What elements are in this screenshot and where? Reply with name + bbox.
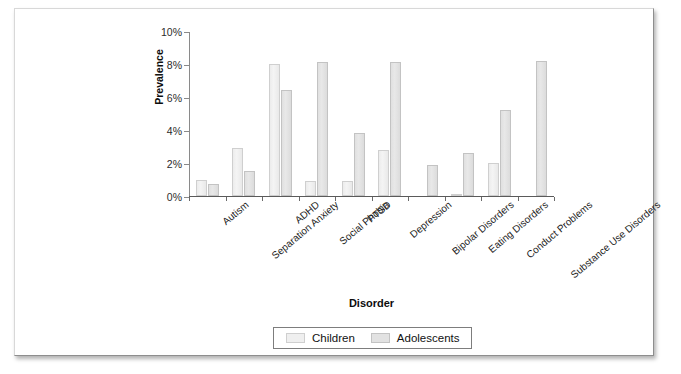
bar-adolescents[interactable]	[317, 62, 328, 196]
bar-group	[305, 31, 328, 196]
bar-children[interactable]	[196, 180, 207, 197]
bar-group	[524, 31, 547, 196]
bar-group	[196, 31, 219, 196]
bar-children[interactable]	[232, 148, 243, 196]
bar-adolescents[interactable]	[536, 61, 547, 196]
bar-adolescents[interactable]	[463, 153, 474, 196]
y-tick-label: 2%	[167, 158, 182, 170]
bar-group	[232, 31, 255, 196]
bar-children[interactable]	[269, 64, 280, 196]
y-tick-mark	[184, 131, 189, 132]
x-tick-label: Autism	[220, 199, 250, 227]
bar-adolescents[interactable]	[427, 165, 438, 196]
chart-legend: ChildrenAdolescents	[273, 327, 472, 349]
bar-group	[269, 31, 292, 196]
bar-group	[415, 31, 438, 196]
bar-adolescents[interactable]	[244, 171, 255, 196]
bar-children[interactable]	[342, 181, 353, 196]
y-tick-label: 10%	[161, 26, 182, 38]
x-tick-mark	[554, 197, 555, 201]
legend-label: Adolescents	[397, 332, 460, 344]
y-axis-line	[189, 32, 190, 197]
bar-group	[451, 31, 474, 196]
bar-adolescents[interactable]	[354, 133, 365, 196]
x-tick-label: Depression	[408, 199, 454, 240]
y-tick-label: 8%	[167, 59, 182, 71]
bar-group	[342, 31, 365, 196]
y-tick-mark	[184, 164, 189, 165]
legend-entry[interactable]: Children	[286, 332, 355, 344]
bar-group	[488, 31, 511, 196]
x-axis-title: Disorder	[189, 297, 554, 309]
y-tick-mark	[184, 98, 189, 99]
legend-entry[interactable]: Adolescents	[371, 332, 460, 344]
x-tick-label: Bipolar Disorders	[450, 199, 516, 257]
prevalence-bar-chart: Prevalence 0%2%4%6%8%10% AutismSeparatio…	[15, 9, 653, 355]
legend-label: Children	[312, 332, 355, 344]
page-sheet: Prevalence 0%2%4%6%8%10% AutismSeparatio…	[14, 8, 654, 356]
y-axis-title: Prevalence	[153, 27, 165, 127]
y-tick-label: 4%	[167, 125, 182, 137]
bar-adolescents[interactable]	[208, 184, 219, 196]
x-axis-labels: AutismSeparation AnxietyADHDSocial Phobi…	[189, 199, 554, 294]
bar-children[interactable]	[488, 163, 499, 196]
bar-adolescents[interactable]	[281, 90, 292, 196]
legend-swatch-icon	[371, 333, 390, 343]
bar-children[interactable]	[305, 181, 316, 196]
plot-area: 0%2%4%6%8%10%	[189, 32, 554, 197]
bar-adolescents[interactable]	[500, 110, 511, 196]
bar-children[interactable]	[378, 150, 389, 196]
x-tick-label: PTSD	[365, 199, 393, 225]
y-tick-mark	[184, 65, 189, 66]
bar-children[interactable]	[451, 194, 462, 196]
bar-group	[378, 31, 401, 196]
y-tick-mark	[184, 32, 189, 33]
bar-adolescents[interactable]	[390, 62, 401, 196]
y-tick-label: 6%	[167, 92, 182, 104]
legend-swatch-icon	[286, 333, 305, 343]
y-tick-label: 0%	[167, 191, 182, 203]
